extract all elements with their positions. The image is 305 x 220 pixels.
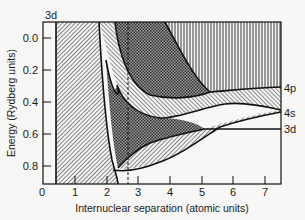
svg-text:2: 2	[104, 186, 110, 198]
label-4p: 4p	[284, 82, 296, 94]
svg-text:4: 4	[167, 186, 173, 198]
svg-text:0.4: 0.4	[23, 96, 38, 108]
chart: 0.0 0.2 0.4 0.6 0.8 0 1 2 3 4 5 6 7 Inte…	[0, 0, 305, 220]
svg-text:0.0: 0.0	[23, 32, 38, 44]
label-3d-top: 3d	[45, 9, 57, 21]
svg-text:0.8: 0.8	[23, 160, 38, 172]
x-tick-labels: 0 1 2 3 4 5 6 7	[39, 186, 268, 198]
svg-text:3: 3	[135, 186, 141, 198]
svg-text:0.6: 0.6	[23, 128, 38, 140]
x-axis-title: Internuclear separation (atomic units)	[75, 202, 248, 214]
y-tick-labels: 0.0 0.2 0.4 0.6 0.8	[23, 32, 38, 172]
label-3d-right: 3d	[284, 123, 296, 135]
label-4s: 4s	[284, 107, 296, 119]
y-axis-title: Energy (Rydberg units)	[5, 49, 17, 157]
svg-text:6: 6	[230, 186, 236, 198]
svg-text:5: 5	[199, 186, 205, 198]
svg-text:1: 1	[72, 186, 78, 198]
svg-text:0: 0	[39, 186, 45, 198]
svg-text:7: 7	[262, 186, 268, 198]
svg-text:0.2: 0.2	[23, 64, 38, 76]
